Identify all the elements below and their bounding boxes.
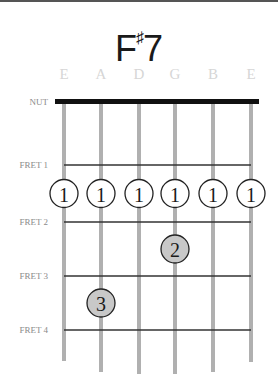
fret-label: FRET 2 <box>19 217 48 227</box>
string-label: B <box>208 66 218 82</box>
fret-label: FRET 1 <box>19 160 48 170</box>
finger-number: 1 <box>246 184 256 206</box>
fret-label: FRET 4 <box>19 325 48 335</box>
finger-number: 1 <box>96 184 106 206</box>
finger-number: 3 <box>96 293 106 315</box>
string-label: G <box>170 66 181 82</box>
nut-bar <box>55 99 259 104</box>
finger-number: 2 <box>170 239 180 261</box>
finger-number: 1 <box>134 184 144 206</box>
finger-marker: 1 <box>237 180 265 208</box>
nut-label: NUT <box>30 97 49 107</box>
string-label: E <box>59 66 68 82</box>
finger-marker: 1 <box>161 180 189 208</box>
finger-marker: 1 <box>199 180 227 208</box>
fret-label: FRET 3 <box>19 271 48 281</box>
chord-diagram: EADGBE FRET 1FRET 2FRET 3FRET 4 NUT 1111… <box>0 0 278 392</box>
finger-marker: 1 <box>125 180 153 208</box>
finger-marker: 1 <box>50 180 78 208</box>
finger-marker: 2 <box>161 235 189 263</box>
finger-marker: 1 <box>87 180 115 208</box>
finger-number: 1 <box>170 184 180 206</box>
string-label: A <box>96 66 107 82</box>
string-label: D <box>134 66 145 82</box>
string-label: E <box>246 66 255 82</box>
finger-marker: 3 <box>87 289 115 317</box>
finger-number: 1 <box>208 184 218 206</box>
finger-number: 1 <box>59 184 69 206</box>
